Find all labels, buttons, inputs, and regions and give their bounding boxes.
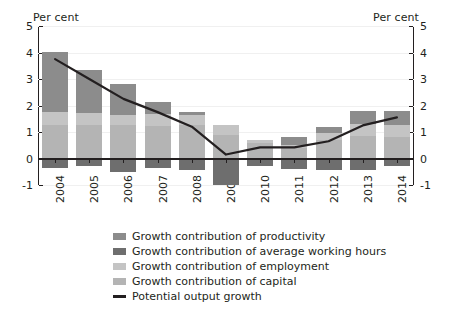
y-axis-tick-label: -1 [420,180,431,191]
right-axis-unit-label: Per cent [373,11,419,24]
legend-label: Potential output growth [132,291,262,302]
y-axis-tick-label: 5 [26,21,33,32]
y-axis-tick-label: 3 [26,74,33,85]
legend-item[interactable]: Growth contribution of average working h… [113,244,413,258]
y-axis-tick-label: 5 [420,21,427,32]
chart-legend: Growth contribution of productivityGrowt… [113,229,413,304]
y-axis-tick-label: 4 [26,47,33,58]
legend-item[interactable]: Growth contribution of productivity [113,229,413,243]
legend-item[interactable]: Growth contribution of capital [113,274,413,288]
chart-container: Per cent Per cent 554433221100-1-1 20042… [0,0,451,313]
legend-label: Growth contribution of productivity [132,231,325,242]
plot-area: 554433221100-1-1 [38,26,414,185]
legend-color-swatch [113,278,126,285]
y-axis-tick-label: 0 [26,153,33,164]
legend-line-swatch [113,295,126,298]
y-axis-tick-label: 2 [26,100,33,111]
line-path [55,59,397,154]
y-axis-tick-label: 2 [420,100,427,111]
y-axis-tick-label: 3 [420,74,427,85]
legend-item[interactable]: Potential output growth [113,289,413,303]
legend-color-swatch [113,233,126,240]
y-axis-tick-label: 4 [420,47,427,58]
y-axis-tick-label: -1 [22,180,33,191]
potential-output-growth-line [38,26,414,185]
legend-item[interactable]: Growth contribution of employment [113,259,413,273]
legend-label: Growth contribution of average working h… [132,246,386,257]
y-axis-tick-label: 1 [26,127,33,138]
legend-label: Growth contribution of capital [132,276,297,287]
legend-color-swatch [113,263,126,270]
legend-label: Growth contribution of employment [132,261,329,272]
legend-color-swatch [113,248,126,255]
left-axis-unit-label: Per cent [33,11,79,24]
x-axis-labels: 2004200520062007200820092010201120122013… [38,185,414,225]
y-axis-tick-label: 0 [420,153,427,164]
y-axis-tick-label: 1 [420,127,427,138]
